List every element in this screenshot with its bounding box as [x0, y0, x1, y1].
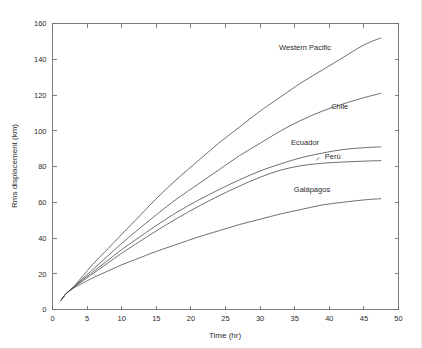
y-tick-label: 0	[42, 305, 46, 314]
series-line-chile	[61, 93, 381, 300]
series-label-perú: Perú	[325, 152, 341, 161]
x-tick-label: 35	[291, 314, 299, 323]
x-tick-label: 45	[360, 314, 368, 323]
x-tick-label: 15	[152, 314, 160, 323]
series-line-ecuador	[61, 147, 381, 301]
y-tick-label: 140	[34, 55, 47, 64]
series-line-peru	[61, 161, 381, 301]
y-tick-label: 80	[38, 162, 46, 171]
y-tick-label: 100	[34, 127, 47, 136]
x-tick-label: 25	[221, 314, 229, 323]
x-tick-label: 0	[50, 314, 54, 323]
series-label-western-pacific: Western Pacific	[279, 43, 331, 52]
series-label-galápagos: Galápagos	[294, 185, 331, 194]
series-annotations: Western PacificChileEcuadorPerúGalápagos	[279, 43, 348, 193]
rms-displacement-line-chart: 0510152025303540455002040608010012014016…	[0, 0, 422, 349]
x-tick-label: 30	[256, 314, 264, 323]
y-tick-label: 60	[38, 198, 46, 207]
series-label-ecuador: Ecuador	[291, 138, 319, 147]
series-line-galapagos	[61, 199, 381, 301]
y-tick-label: 20	[38, 270, 46, 279]
peru-leader-line	[317, 157, 319, 160]
y-axis-title: Rms displacement (km)	[10, 124, 19, 208]
x-tick-label: 5	[85, 314, 89, 323]
plot-frame	[53, 24, 399, 310]
x-tick-label: 40	[325, 314, 333, 323]
x-tick-label: 20	[187, 314, 195, 323]
y-tick-label: 120	[34, 91, 47, 100]
y-tick-label: 40	[38, 234, 46, 243]
x-tick-label: 50	[394, 314, 402, 323]
chart-figure: 0510152025303540455002040608010012014016…	[0, 0, 422, 349]
series-label-chile: Chile	[331, 102, 348, 111]
series-line-western-pacific	[61, 38, 381, 301]
tick-labels: 0510152025303540455002040608010012014016…	[34, 19, 403, 322]
axis-ticks	[53, 24, 399, 310]
y-tick-label: 160	[34, 19, 47, 28]
x-axis-title: Time (hr)	[209, 331, 241, 340]
data-series-group	[61, 38, 381, 301]
x-tick-label: 10	[118, 314, 126, 323]
